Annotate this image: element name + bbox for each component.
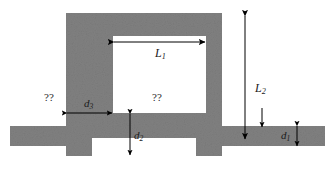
diagram-svg: [0, 0, 335, 174]
label-L2: L2: [255, 82, 266, 96]
label-left-region-unknown: ??: [44, 92, 54, 103]
label-d3: d3: [84, 98, 93, 110]
diagram-canvas: L1 L2 d3 d2 d1 ?? ??: [0, 0, 335, 174]
label-d2: d2: [134, 130, 143, 142]
label-L1: L1: [155, 47, 166, 61]
label-d1: d1: [281, 130, 290, 142]
label-aperture-region-unknown: ??: [152, 92, 162, 103]
